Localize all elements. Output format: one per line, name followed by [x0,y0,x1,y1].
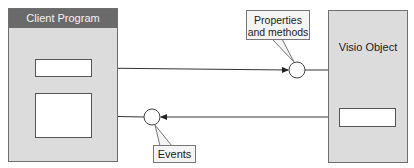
client-slot-events [35,93,92,138]
visio-slot [339,108,396,127]
properties-interface-circle [289,62,305,78]
properties-callout: Properties and methods [246,10,310,40]
client-slot-properties [35,59,92,77]
client-program-panel: Client Program [8,8,118,162]
events-interface-circle [144,109,160,125]
visio-object-panel: Visio Object [328,10,408,163]
visio-object-title: Visio Object [329,41,407,53]
events-callout: Events [153,145,196,163]
client-program-header: Client Program [9,9,117,28]
